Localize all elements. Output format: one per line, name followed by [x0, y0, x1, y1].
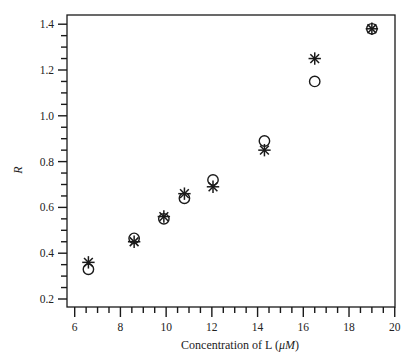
x-tick-label: 10 [160, 321, 172, 333]
circle-marker [310, 76, 320, 86]
x-axis-label-unit: μM [278, 338, 296, 352]
y-tick-label: 0.6 [40, 201, 55, 213]
x-axis-label-prefix: Concentration of L ( [181, 338, 279, 352]
asterisk-marker [309, 52, 321, 64]
y-tick-label: 1.4 [40, 18, 55, 30]
y-tick-label: 0.4 [40, 247, 55, 259]
x-tick-label: 18 [343, 321, 355, 333]
asterisk-marker [207, 181, 219, 193]
x-axis-label-suffix: ) [295, 338, 299, 352]
y-tick-label: 0.2 [40, 293, 55, 305]
x-tick-label: 20 [389, 321, 401, 333]
y-axis: 0.20.40.60.81.01.21.4 [40, 18, 67, 305]
asterisk-marker [82, 256, 94, 268]
asterisk-marker [258, 144, 270, 156]
scatter-chart: 0.20.40.60.81.01.21.4 68101214161820 R C… [0, 0, 416, 363]
plot-frame [67, 15, 395, 307]
x-axis: 68101214161820 [72, 307, 401, 333]
asterisk-marker [158, 210, 170, 222]
x-tick-label: 8 [118, 321, 124, 333]
x-tick-label: 16 [298, 321, 310, 333]
x-tick-label: 12 [206, 321, 218, 333]
asterisk-marker [178, 187, 190, 199]
y-tick-label: 0.8 [40, 156, 55, 168]
data-points [82, 23, 378, 275]
x-tick-label: 14 [252, 321, 264, 333]
y-tick-label: 1.0 [40, 110, 55, 122]
y-axis-label: R [11, 166, 25, 175]
x-axis-label: Concentration of L (μM) [181, 338, 299, 352]
x-tick-label: 6 [72, 321, 78, 333]
plot-border [67, 15, 395, 307]
y-tick-label: 1.2 [40, 64, 55, 76]
asterisk-marker [366, 23, 378, 35]
asterisk-marker [128, 236, 140, 248]
